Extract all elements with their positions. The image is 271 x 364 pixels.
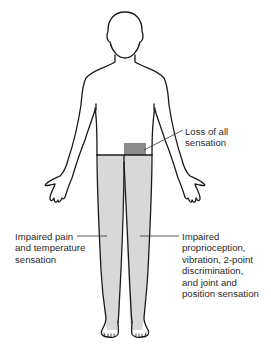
total-loss-region bbox=[124, 143, 146, 155]
head-outline bbox=[107, 12, 143, 58]
label-impaired-proprioception: Impaired proprioception, vibration, 2-po… bbox=[182, 231, 259, 299]
label-impaired-pain-temperature: Impaired pain and temperature sensation bbox=[15, 231, 85, 265]
label-loss-of-all-sensation: Loss of all sensation bbox=[185, 126, 228, 149]
body-diagram bbox=[0, 0, 271, 364]
